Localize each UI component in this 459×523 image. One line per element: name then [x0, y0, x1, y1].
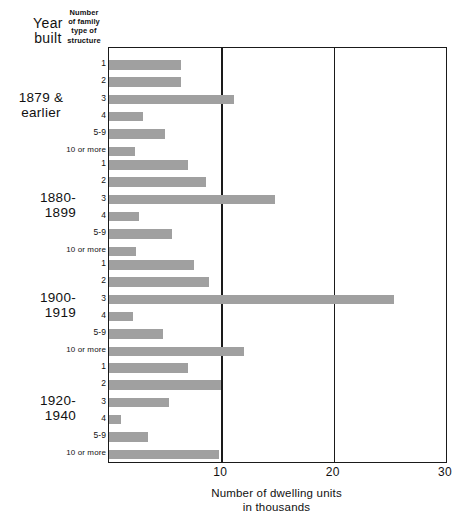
- structure-type-header: Number of family type of structure: [58, 8, 110, 45]
- bar: [109, 95, 234, 105]
- structure-type-header-line2: of family: [68, 17, 100, 26]
- category-label: 1: [50, 58, 106, 68]
- bar: [109, 295, 394, 305]
- structure-type-header-line1: Number: [70, 8, 99, 17]
- bar: [109, 160, 188, 170]
- category-label: 2: [50, 275, 106, 285]
- bar: [109, 415, 121, 425]
- category-label: 1: [50, 158, 106, 168]
- bar: [109, 432, 148, 442]
- x-tick-label-10: 10: [205, 466, 235, 479]
- bar: [109, 77, 181, 87]
- bar: [109, 112, 143, 122]
- bar-chart: Year built Number of family type of stru…: [0, 0, 459, 523]
- category-label: 3: [50, 293, 106, 303]
- x-axis-title-line2: in thousands: [108, 501, 445, 515]
- bar: [109, 450, 219, 460]
- x-tick-label-20: 20: [318, 466, 348, 479]
- bar: [109, 229, 172, 239]
- bar: [109, 380, 221, 390]
- category-label: 10 or more: [48, 245, 106, 255]
- category-label: 5-9: [50, 127, 106, 137]
- category-label: 1: [50, 258, 106, 268]
- x-axis-title-line1: Number of dwelling units: [211, 487, 342, 499]
- bar: [109, 177, 206, 187]
- category-label: 4: [50, 110, 106, 120]
- bar: [109, 329, 163, 339]
- bar: [109, 363, 188, 373]
- gridline-20: [334, 48, 335, 462]
- x-tick-label-30: 30: [430, 466, 459, 479]
- bar: [109, 147, 135, 157]
- category-label: 4: [50, 210, 106, 220]
- bar: [109, 247, 136, 257]
- bar: [109, 212, 139, 222]
- bar: [109, 260, 194, 270]
- x-axis-title: Number of dwelling units in thousands: [108, 487, 445, 514]
- plot-area: [108, 47, 447, 463]
- category-label: 4: [50, 413, 106, 423]
- category-label: 5-9: [50, 327, 106, 337]
- category-label: 3: [50, 93, 106, 103]
- category-label: 5-9: [50, 430, 106, 440]
- bar: [109, 398, 169, 408]
- category-label: 4: [50, 310, 106, 320]
- category-label: 2: [50, 378, 106, 388]
- category-label: 2: [50, 175, 106, 185]
- category-label: 10 or more: [48, 448, 106, 458]
- bar: [109, 195, 275, 205]
- bar: [109, 60, 181, 70]
- category-row-labels: 12345-910 or more12345-910 or more12345-…: [44, 47, 106, 461]
- bar: [109, 312, 133, 322]
- category-label: 1: [50, 361, 106, 371]
- category-label: 10 or more: [48, 345, 106, 355]
- structure-type-header-line3: type of: [71, 26, 96, 35]
- gridline-10: [221, 48, 222, 462]
- bar: [109, 277, 209, 287]
- category-label: 3: [50, 193, 106, 203]
- category-label: 2: [50, 75, 106, 85]
- category-label: 5-9: [50, 227, 106, 237]
- category-label: 10 or more: [48, 145, 106, 155]
- category-label: 3: [50, 396, 106, 406]
- bar: [109, 347, 244, 357]
- structure-type-header-line4: structure: [67, 36, 100, 45]
- bar: [109, 129, 165, 139]
